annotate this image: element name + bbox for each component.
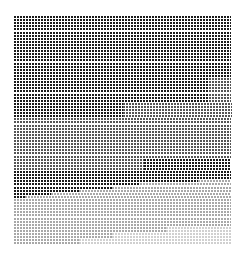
glyph-row-segment	[14, 227, 166, 229]
glyph-row-segment	[112, 236, 231, 238]
glyph-row-segment	[14, 59, 231, 61]
glyph-row-segment	[14, 28, 231, 30]
glyph-row-segment	[14, 149, 231, 151]
glyph-row-segment	[14, 47, 231, 49]
glyph-row-segment	[14, 115, 123, 117]
glyph-row-segment	[14, 121, 231, 123]
glyph-row-segment	[14, 224, 231, 226]
glyph-row-segment	[209, 100, 231, 102]
glyph-row-segment	[14, 159, 144, 161]
glyph-row-segment	[14, 125, 231, 127]
glyph-row-segment	[166, 227, 231, 229]
glyph-row-segment	[14, 134, 231, 136]
glyph-row-segment	[123, 112, 232, 114]
glyph-row-segment	[14, 152, 231, 154]
glyph-row-segment	[14, 81, 209, 83]
glyph-row-segment	[14, 239, 79, 241]
glyph-row-segment	[14, 242, 79, 244]
glyph-row-segment	[14, 44, 231, 46]
glyph-row-segment	[14, 174, 231, 176]
glyph-row-segment	[14, 146, 231, 148]
glyph-row-segment	[14, 190, 79, 192]
glyph-row-segment	[14, 221, 231, 223]
glyph-row-segment	[14, 233, 112, 235]
glyph-row-segment	[14, 90, 209, 92]
glyph-row-segment	[14, 140, 231, 142]
glyph-row-segment	[14, 202, 231, 204]
glyph-row-segment	[14, 100, 209, 102]
glyph-row-segment	[14, 156, 231, 158]
glyph-row-segment	[14, 78, 209, 80]
glyph-row-segment	[14, 118, 231, 120]
glyph-row-segment	[14, 183, 140, 185]
glyph-grid	[14, 16, 231, 246]
glyph-row-segment	[14, 19, 231, 21]
glyph-row-segment	[14, 168, 144, 170]
glyph-row-segment	[14, 32, 231, 34]
glyph-row-segment	[14, 137, 231, 139]
glyph-row-segment	[14, 94, 209, 96]
caption	[10, 2, 140, 10]
glyph-row-segment	[209, 97, 231, 99]
glyph-row-segment	[14, 50, 231, 52]
glyph-row-segment	[144, 162, 231, 164]
glyph-row-segment	[112, 233, 231, 235]
glyph-row-segment	[166, 230, 231, 232]
glyph-row-segment	[123, 106, 232, 108]
glyph-row-segment	[14, 230, 166, 232]
glyph-row-segment	[51, 193, 231, 195]
glyph-row-segment	[14, 72, 231, 74]
glyph-row-segment	[14, 193, 51, 195]
glyph-row-segment	[14, 208, 231, 210]
glyph-row-segment	[14, 16, 231, 18]
glyph-row-segment	[144, 165, 231, 167]
glyph-row-segment	[14, 236, 112, 238]
glyph-row-segment	[14, 211, 231, 213]
glyph-row-segment	[14, 196, 25, 198]
glyph-row-segment	[79, 239, 231, 241]
glyph-row-segment	[14, 25, 231, 27]
glyph-row-segment	[209, 87, 231, 89]
glyph-row-segment	[209, 81, 231, 83]
glyph-row-segment	[140, 183, 231, 185]
glyph-row-segment	[144, 168, 231, 170]
glyph-row-segment	[14, 112, 123, 114]
glyph-row-segment	[14, 41, 231, 43]
glyph-row-segment	[209, 78, 231, 80]
glyph-row-segment	[209, 94, 231, 96]
glyph-row-segment	[14, 75, 231, 77]
glyph-row-segment	[14, 109, 123, 111]
glyph-row-segment	[14, 128, 231, 130]
glyph-row-segment	[14, 205, 231, 207]
glyph-row-segment	[14, 171, 231, 173]
glyph-row-segment	[14, 180, 198, 182]
glyph-row-segment	[14, 56, 231, 58]
glyph-row-segment	[14, 106, 123, 108]
glyph-row-segment	[14, 131, 231, 133]
glyph-row-segment	[25, 196, 231, 198]
glyph-row-segment	[209, 84, 231, 86]
glyph-row-segment	[14, 53, 231, 55]
glyph-row-segment	[123, 109, 232, 111]
glyph-row-segment	[14, 38, 231, 40]
glyph-row-segment	[14, 97, 209, 99]
glyph-row-segment	[14, 165, 144, 167]
glyph-row-segment	[112, 187, 231, 189]
glyph-row-segment	[14, 162, 144, 164]
glyph-row-segment	[14, 218, 231, 220]
glyph-row-segment	[14, 87, 209, 89]
glyph-row-segment	[14, 103, 123, 105]
glyph-row-segment	[14, 214, 231, 216]
glyph-row-segment	[14, 143, 231, 145]
glyph-row-segment	[14, 22, 231, 24]
glyph-row-segment	[209, 90, 231, 92]
glyph-row-segment	[198, 180, 231, 182]
glyph-row-segment	[123, 115, 232, 117]
glyph-row-segment	[14, 69, 231, 71]
glyph-row-segment	[14, 84, 209, 86]
glyph-row-segment	[79, 190, 231, 192]
glyph-row-segment	[14, 177, 231, 179]
glyph-row-segment	[14, 35, 231, 37]
glyph-row-segment	[144, 159, 231, 161]
glyph-row-segment	[14, 187, 112, 189]
